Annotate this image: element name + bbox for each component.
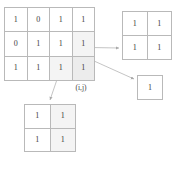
matrix-cell: 1 xyxy=(148,12,173,36)
matrix-cell: 1 xyxy=(148,36,173,60)
matrix-cell: 1 xyxy=(50,32,73,56)
matrix-cell: 1 xyxy=(5,57,28,81)
matrix-cell: 1 xyxy=(123,12,148,36)
matrix-cell: 1 xyxy=(51,105,77,129)
ij-label: (i,j) xyxy=(66,83,96,92)
matrix-cell: 1 xyxy=(50,57,73,81)
matrix-cell: 1 xyxy=(138,76,163,100)
matrix-cell: 1 xyxy=(123,36,148,60)
matrix-cell: 1 xyxy=(50,8,73,32)
matrix-cell: 1 xyxy=(73,32,96,56)
matrix-cell-ij: 1 xyxy=(73,57,96,81)
submatrix-2x2-right: 1 1 1 1 xyxy=(122,11,172,60)
matrix-cell: 1 xyxy=(25,105,51,129)
matrix-cell: 1 xyxy=(28,57,51,81)
submatrix-1x1: 1 xyxy=(137,75,163,100)
matrix-cell: 1 xyxy=(5,8,28,32)
matrix-cell: 1 xyxy=(28,32,51,56)
matrix-cell: 0 xyxy=(28,8,51,32)
diagram-canvas: 1 0 1 1 0 1 1 1 1 1 1 1 (i,j) 1 1 1 1 1 … xyxy=(0,0,181,175)
main-matrix: 1 0 1 1 0 1 1 1 1 1 1 1 xyxy=(4,7,95,81)
submatrix-2x2-bottom: 1 1 1 1 xyxy=(24,104,76,152)
matrix-cell: 1 xyxy=(73,8,96,32)
matrix-cell: 1 xyxy=(51,129,77,153)
matrix-cell: 0 xyxy=(5,32,28,56)
matrix-cell: 1 xyxy=(25,129,51,153)
